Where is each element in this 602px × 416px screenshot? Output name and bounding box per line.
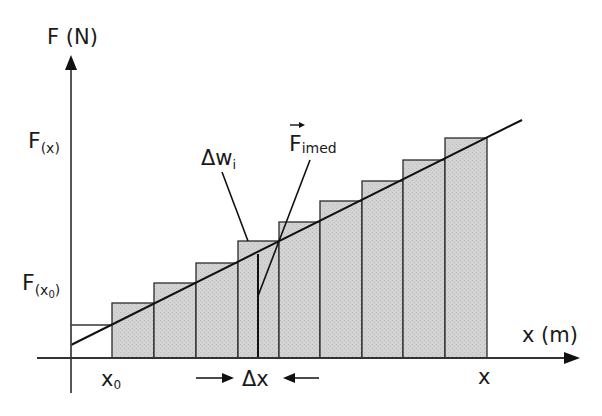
delta-w-label: Δwi bbox=[201, 146, 236, 172]
svg-text:Fimed: Fimed bbox=[289, 131, 337, 156]
rectangle-bars bbox=[112, 138, 487, 358]
delta-x-indicator: Δx bbox=[196, 367, 319, 391]
f-x-label: F(x) bbox=[28, 128, 60, 156]
bar-9 bbox=[445, 138, 487, 358]
x0-label: x0 bbox=[101, 367, 121, 392]
bar-3 bbox=[196, 263, 238, 358]
bar-7 bbox=[362, 181, 403, 358]
right-arrow-icon bbox=[222, 373, 234, 383]
x-end-label: x bbox=[478, 365, 490, 389]
f-x0-label: F(x0) bbox=[22, 270, 60, 300]
bar-1 bbox=[112, 303, 154, 358]
y-axis-arrow-icon bbox=[65, 55, 77, 70]
bar-2 bbox=[154, 283, 196, 358]
x-axis-arrow-icon bbox=[564, 352, 580, 364]
y-axis-label: F (N) bbox=[47, 25, 98, 49]
force-displacement-diagram: F (N) x (m) F(x) F(x0) x0 x Δwi Fimed Δx bbox=[0, 0, 602, 416]
delta-w-leader-line bbox=[222, 172, 248, 241]
vector-arrow-icon bbox=[299, 122, 305, 128]
x-axis-label: x (m) bbox=[522, 323, 578, 347]
bar-6 bbox=[320, 201, 362, 358]
f-imed-label: Fimed bbox=[289, 122, 337, 156]
bar-8 bbox=[403, 160, 445, 358]
delta-x-label: Δx bbox=[242, 367, 269, 391]
bar-5 bbox=[279, 222, 320, 358]
